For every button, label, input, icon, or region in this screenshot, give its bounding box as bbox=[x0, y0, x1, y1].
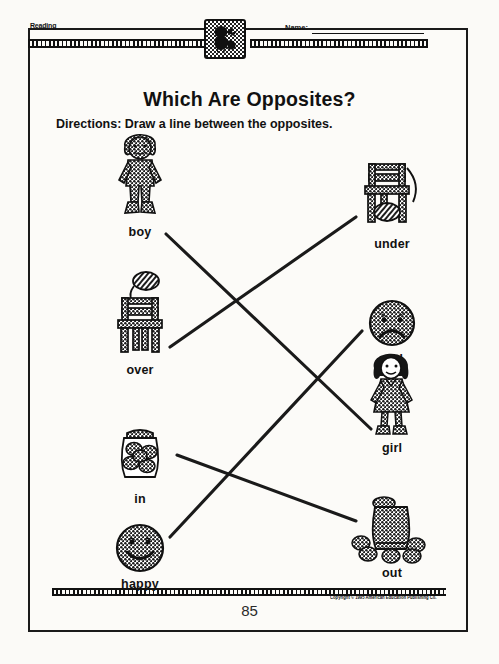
item-in[interactable]: in bbox=[88, 413, 192, 506]
boy-figure-icon bbox=[88, 146, 192, 224]
cookies-in-jar-icon bbox=[88, 413, 192, 491]
happy-face-icon bbox=[88, 498, 192, 576]
item-caption: boy bbox=[88, 225, 192, 239]
directions: Directions: Draw a line between the oppo… bbox=[56, 117, 332, 131]
item-caption: girl bbox=[340, 441, 444, 455]
ball-over-chair-icon bbox=[88, 284, 192, 362]
item-girl[interactable]: girl bbox=[340, 362, 444, 455]
item-caption: under bbox=[340, 237, 444, 251]
item-over[interactable]: over bbox=[88, 284, 192, 377]
girl-figure-icon bbox=[340, 362, 444, 440]
item-boy[interactable]: boy bbox=[88, 146, 192, 239]
item-caption: out bbox=[340, 566, 444, 580]
page-title: Which Are Opposites? bbox=[0, 88, 499, 111]
item-caption: over bbox=[88, 363, 192, 377]
cookies-out-of-jar-icon bbox=[340, 487, 444, 565]
header-rule-right bbox=[250, 39, 428, 48]
item-out[interactable]: out bbox=[340, 487, 444, 580]
name-input-line[interactable] bbox=[312, 33, 424, 34]
sad-face-icon bbox=[340, 273, 444, 351]
page-number: 85 bbox=[0, 602, 499, 619]
subject-label: Reading bbox=[30, 22, 56, 29]
bird-badge-icon bbox=[204, 19, 246, 59]
header-rule-left bbox=[28, 39, 206, 48]
worksheet-header: Reading Name: bbox=[28, 22, 428, 68]
item-happy[interactable]: happy bbox=[88, 498, 192, 591]
name-label: Name: bbox=[285, 23, 308, 32]
worksheet-page: Reading Name: Which Are Opposites? Direc… bbox=[0, 0, 499, 664]
ball-under-chair-icon bbox=[340, 158, 444, 236]
item-under[interactable]: under bbox=[340, 158, 444, 251]
copyright-notice: Copyright © 1995 American Education Publ… bbox=[330, 594, 470, 600]
